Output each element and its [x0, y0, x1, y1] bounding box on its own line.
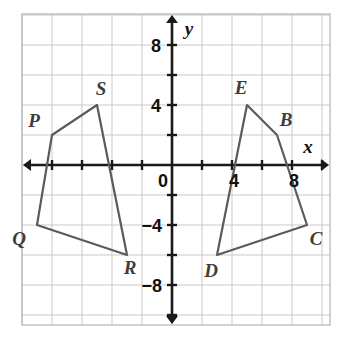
vertex-label-d: D: [203, 260, 218, 281]
y-axis-arrow-down: [166, 316, 178, 324]
y-axis-tick-label: 8: [151, 36, 161, 56]
y-axis-tick-label: −4: [141, 216, 162, 236]
plot-area-border: [22, 14, 330, 325]
x-axis-tick-label: 4: [229, 171, 239, 191]
vertex-label-q: Q: [12, 228, 26, 249]
x-axis-label: x: [302, 136, 313, 157]
plot-border: [22, 14, 330, 325]
vertex-label-b: B: [279, 109, 293, 130]
vertex-label-r: R: [123, 257, 137, 278]
coordinate-plane-svg: 4884−4−80 PSRQEBCD xy: [0, 0, 353, 347]
vertex-label-e: E: [234, 77, 248, 98]
tick-marks-layer: [52, 45, 322, 315]
origin-label: 0: [158, 171, 168, 191]
coordinate-plane-figure: 4884−4−80 PSRQEBCD xy: [0, 0, 353, 347]
x-axis-tick-label: 8: [289, 171, 299, 191]
vertex-label-s: S: [96, 78, 107, 99]
vertex-label-c: C: [310, 228, 323, 249]
y-axis-tick-label: 4: [151, 96, 161, 116]
y-axis-tick-label: −8: [141, 276, 162, 296]
x-axis-arrow-left: [23, 159, 31, 171]
vertex-label-p: P: [27, 110, 40, 131]
axes-layer: [23, 15, 329, 324]
y-axis-arrow-up: [166, 15, 178, 23]
y-axis-label: y: [183, 18, 194, 39]
grid-layer: [22, 14, 330, 325]
